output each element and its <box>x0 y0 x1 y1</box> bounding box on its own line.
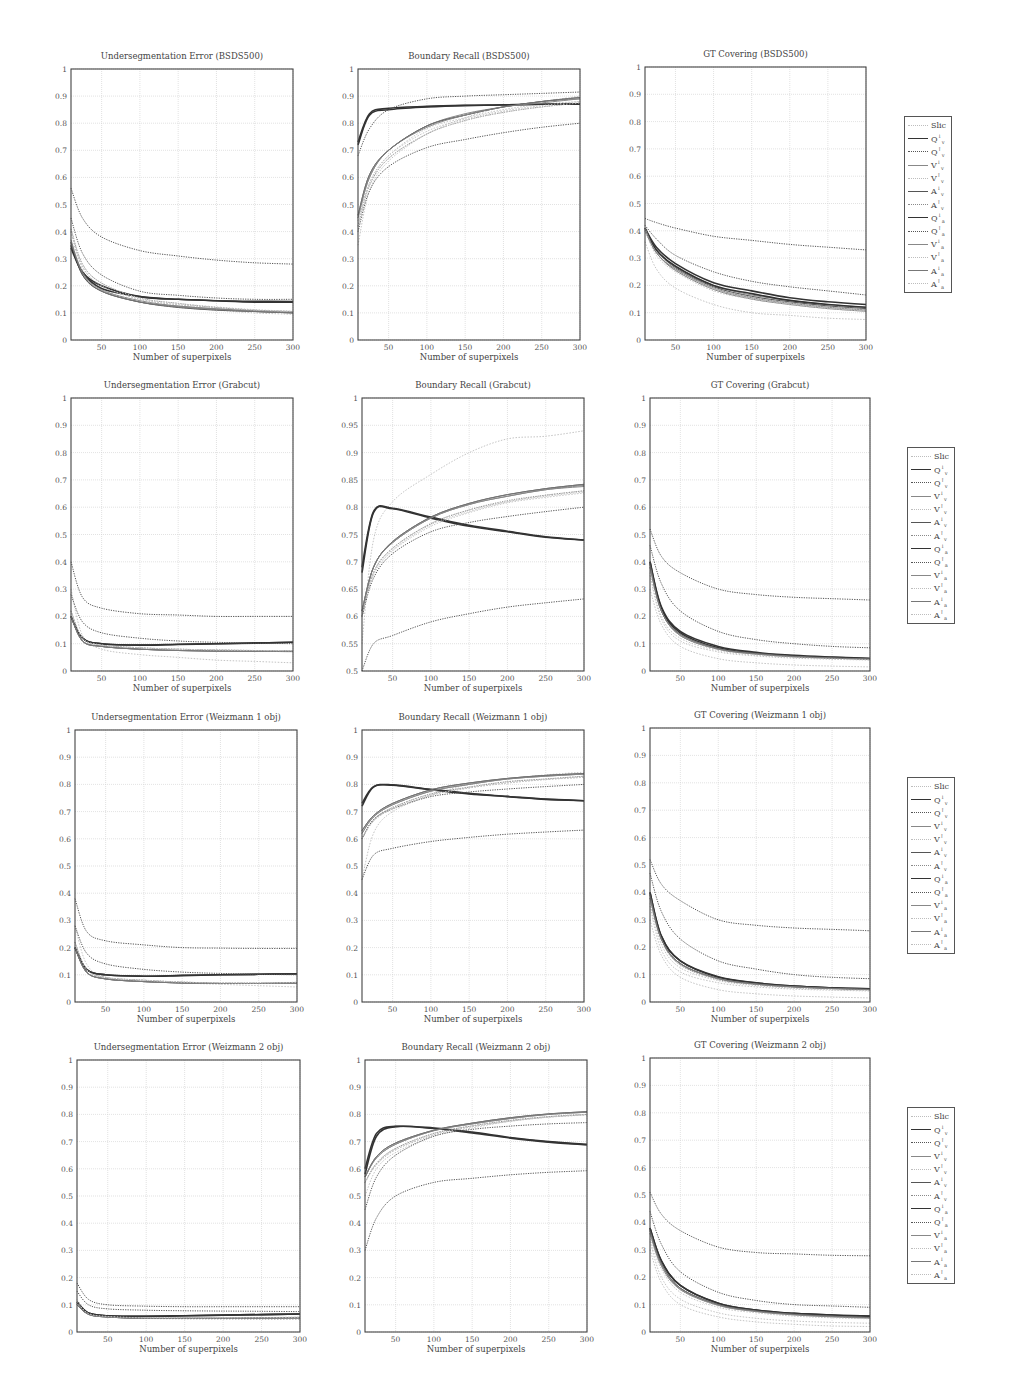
y-tick-label: 0.7 <box>634 806 646 815</box>
y-tick-label: 0.3 <box>346 916 358 925</box>
chart-panel: Undersegmentation Error (Weizmann 1 obj)… <box>30 708 312 1030</box>
y-tick-label: 0 <box>636 336 641 345</box>
legend-label: Q↑v <box>934 477 948 489</box>
legend-label: V↑a <box>934 912 947 924</box>
x-tick-label: 100 <box>427 1335 442 1344</box>
x-tick-label: 50 <box>671 343 681 352</box>
y-tick-label: 1 <box>356 1056 361 1065</box>
x-tick-label: 250 <box>825 1335 840 1344</box>
line-chart: 00.10.20.30.40.50.60.70.80.9150100150200… <box>26 398 308 705</box>
x-tick-label: 250 <box>821 343 836 352</box>
x-tick-label: 100 <box>706 343 721 352</box>
legend-swatch-icon <box>908 244 928 245</box>
legend-swatch-icon <box>911 614 931 615</box>
chart-panel: Boundary Recall (Weizmann 2 obj)00.10.20… <box>320 1038 602 1360</box>
legend-swatch-icon <box>911 482 931 483</box>
series-group <box>650 529 870 667</box>
x-axis-label: Number of superpixels <box>650 1344 870 1354</box>
y-tick-label: 0.9 <box>629 90 641 99</box>
y-tick-label: 0.1 <box>55 309 67 318</box>
y-tick-label: 0.3 <box>342 255 354 264</box>
series-line <box>645 219 866 250</box>
y-tick-label: 0.65 <box>341 585 358 594</box>
legend-label: Q↑a <box>931 225 945 237</box>
legend-item: A↓a <box>911 925 951 938</box>
y-tick-label: 0.1 <box>346 971 358 980</box>
series-line <box>650 1192 870 1256</box>
series-line <box>650 565 870 660</box>
series-group <box>358 92 580 245</box>
legend-label: V↓a <box>931 238 944 250</box>
legend-swatch-icon <box>911 865 931 866</box>
chart-panel: GT Covering (BSDS500)00.10.20.30.40.50.6… <box>600 45 881 368</box>
legend-label: A↑v <box>931 199 944 211</box>
x-tick-label: 100 <box>133 674 148 683</box>
legend-label: Slic <box>934 1112 949 1121</box>
legend-swatch-icon <box>908 270 928 271</box>
legend-swatch-icon <box>911 931 931 932</box>
legend-label: Q↓a <box>931 212 945 224</box>
legend-item: Q↑v <box>911 806 951 819</box>
legend-item: A↑a <box>911 938 951 951</box>
legend-swatch-icon <box>911 905 931 906</box>
y-tick-label: 0.8 <box>55 119 67 128</box>
legend: SlicQ↓vQ↑vV↓vV↑vA↓vA↑vQ↓aQ↑aV↓aV↑aA↓aA↑a <box>907 447 955 624</box>
legend-label: V↑v <box>934 503 947 515</box>
legend-item: V↓a <box>908 238 948 251</box>
y-tick-label: 0.7 <box>55 476 67 485</box>
legend-item: A↑a <box>911 608 951 621</box>
legend-swatch-icon <box>908 151 928 152</box>
series-line <box>362 485 584 616</box>
series-line <box>365 1112 587 1177</box>
legend-swatch-icon <box>911 496 931 497</box>
series-line <box>650 565 870 660</box>
y-tick-label: 0.3 <box>61 1246 73 1255</box>
x-tick-label: 300 <box>863 1335 878 1344</box>
y-tick-label: 0.7 <box>629 145 641 154</box>
y-tick-label: 0.2 <box>634 943 646 952</box>
series-line <box>650 1228 870 1316</box>
x-tick-label: 50 <box>388 674 398 683</box>
series-line <box>362 599 584 671</box>
y-tick-label: 0.4 <box>342 228 354 237</box>
x-axis-label: Number of superpixels <box>362 1014 584 1024</box>
y-tick-label: 0.4 <box>55 558 67 567</box>
legend-item: A↓a <box>911 595 951 608</box>
y-tick-label: 0.1 <box>634 1301 646 1310</box>
line-chart: 00.10.20.30.40.50.60.70.80.9150100150200… <box>605 728 885 1036</box>
series-line <box>362 772 584 879</box>
legend-swatch-icon <box>911 786 931 787</box>
x-tick-label: 100 <box>424 1005 439 1014</box>
grid-lines <box>650 398 870 671</box>
y-tick-label: 1 <box>62 394 67 403</box>
y-tick-label: 0 <box>62 336 67 345</box>
y-tick-label: 0.6 <box>634 834 646 843</box>
legend-item: Q↓v <box>911 463 951 476</box>
x-tick-label: 300 <box>859 343 874 352</box>
x-tick-label: 100 <box>711 1335 726 1344</box>
legend-swatch-icon <box>911 918 931 919</box>
legend-item: Q↑v <box>911 476 951 489</box>
y-tick-label: 0.55 <box>341 640 358 649</box>
series-line <box>365 1126 587 1169</box>
line-chart: 00.10.20.30.40.50.60.70.80.9150100150200… <box>317 730 599 1036</box>
y-tick-label: 1 <box>349 65 354 74</box>
legend-item: Q↓a <box>908 211 948 224</box>
y-tick-label: 0.3 <box>55 255 67 264</box>
series-line <box>650 562 870 659</box>
legend-item: V↑v <box>908 172 948 185</box>
x-tick-label: 100 <box>711 1005 726 1014</box>
chart-title: Boundary Recall (Weizmann 2 obj) <box>365 1042 587 1052</box>
x-tick-label: 100 <box>139 1335 154 1344</box>
y-tick-label: 1 <box>66 726 71 735</box>
legend-item: V↓v <box>908 159 948 172</box>
chart-title: GT Covering (Weizmann 2 obj) <box>650 1040 870 1050</box>
series-line <box>71 595 293 644</box>
x-axis-label: Number of superpixels <box>650 683 870 693</box>
x-tick-label: 200 <box>787 1005 802 1014</box>
y-tick-label: 0.9 <box>55 92 67 101</box>
series-line <box>650 906 870 991</box>
series-group <box>77 1283 300 1320</box>
legend-swatch-icon <box>908 204 928 205</box>
legend-item: Q↓a <box>911 1202 951 1215</box>
